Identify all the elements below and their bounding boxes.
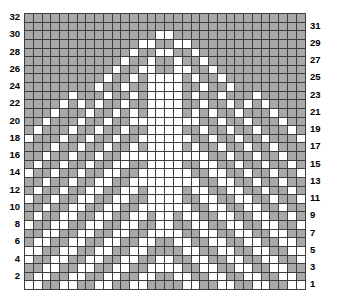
chart-cell[interactable] <box>252 152 261 161</box>
chart-cell[interactable] <box>244 22 253 31</box>
chart-cell[interactable] <box>121 272 130 281</box>
chart-cell[interactable] <box>235 169 244 178</box>
chart-cell[interactable] <box>51 143 60 152</box>
chart-cell[interactable] <box>95 212 104 221</box>
chart-cell[interactable] <box>112 177 121 186</box>
chart-cell[interactable] <box>287 134 296 143</box>
chart-cell[interactable] <box>209 203 218 212</box>
chart-cell[interactable] <box>138 74 147 83</box>
chart-cell[interactable] <box>279 126 288 135</box>
chart-cell[interactable] <box>33 281 42 290</box>
chart-cell[interactable] <box>174 65 183 74</box>
chart-cell[interactable] <box>130 195 139 204</box>
chart-cell[interactable] <box>138 57 147 66</box>
chart-cell[interactable] <box>25 264 34 273</box>
chart-cell[interactable] <box>217 74 226 83</box>
chart-cell[interactable] <box>138 177 147 186</box>
chart-cell[interactable] <box>226 48 235 57</box>
chart-cell[interactable] <box>121 160 130 169</box>
chart-cell[interactable] <box>296 14 305 23</box>
chart-cell[interactable] <box>68 65 77 74</box>
chart-cell[interactable] <box>147 31 156 40</box>
chart-cell[interactable] <box>60 195 69 204</box>
chart-cell[interactable] <box>165 48 174 57</box>
chart-cell[interactable] <box>261 91 270 100</box>
chart-cell[interactable] <box>103 238 112 247</box>
chart-cell[interactable] <box>130 272 139 281</box>
chart-cell[interactable] <box>235 14 244 23</box>
chart-cell[interactable] <box>165 31 174 40</box>
chart-cell[interactable] <box>51 74 60 83</box>
chart-cell[interactable] <box>226 39 235 48</box>
chart-cell[interactable] <box>200 134 209 143</box>
chart-cell[interactable] <box>279 281 288 290</box>
chart-cell[interactable] <box>261 195 270 204</box>
chart-cell[interactable] <box>68 117 77 126</box>
chart-cell[interactable] <box>165 221 174 230</box>
chart-cell[interactable] <box>252 143 261 152</box>
chart-cell[interactable] <box>217 31 226 40</box>
chart-cell[interactable] <box>68 100 77 109</box>
chart-cell[interactable] <box>121 22 130 31</box>
chart-cell[interactable] <box>174 22 183 31</box>
chart-cell[interactable] <box>42 117 51 126</box>
chart-cell[interactable] <box>103 255 112 264</box>
chart-cell[interactable] <box>200 126 209 135</box>
chart-cell[interactable] <box>279 100 288 109</box>
chart-cell[interactable] <box>86 272 95 281</box>
chart-cell[interactable] <box>147 221 156 230</box>
chart-cell[interactable] <box>60 126 69 135</box>
chart-cell[interactable] <box>174 14 183 23</box>
chart-cell[interactable] <box>51 48 60 57</box>
chart-cell[interactable] <box>130 203 139 212</box>
chart-cell[interactable] <box>252 22 261 31</box>
chart-cell[interactable] <box>279 272 288 281</box>
chart-cell[interactable] <box>287 31 296 40</box>
chart-cell[interactable] <box>200 57 209 66</box>
chart-cell[interactable] <box>60 134 69 143</box>
chart-cell[interactable] <box>279 117 288 126</box>
chart-cell[interactable] <box>235 229 244 238</box>
chart-cell[interactable] <box>147 152 156 161</box>
chart-cell[interactable] <box>165 195 174 204</box>
chart-cell[interactable] <box>86 281 95 290</box>
chart-cell[interactable] <box>270 134 279 143</box>
chart-cell[interactable] <box>86 83 95 92</box>
chart-cell[interactable] <box>33 177 42 186</box>
chart-cell[interactable] <box>217 65 226 74</box>
chart-cell[interactable] <box>156 238 165 247</box>
chart-cell[interactable] <box>68 169 77 178</box>
chart-cell[interactable] <box>174 272 183 281</box>
chart-cell[interactable] <box>33 195 42 204</box>
chart-cell[interactable] <box>191 186 200 195</box>
chart-cell[interactable] <box>226 272 235 281</box>
chart-cell[interactable] <box>156 160 165 169</box>
chart-cell[interactable] <box>95 126 104 135</box>
chart-cell[interactable] <box>86 255 95 264</box>
chart-cell[interactable] <box>209 31 218 40</box>
chart-cell[interactable] <box>235 83 244 92</box>
chart-cell[interactable] <box>33 39 42 48</box>
chart-cell[interactable] <box>147 143 156 152</box>
chart-cell[interactable] <box>103 74 112 83</box>
chart-cell[interactable] <box>270 221 279 230</box>
chart-cell[interactable] <box>147 255 156 264</box>
chart-cell[interactable] <box>296 272 305 281</box>
chart-cell[interactable] <box>42 238 51 247</box>
chart-cell[interactable] <box>270 186 279 195</box>
chart-cell[interactable] <box>217 22 226 31</box>
chart-cell[interactable] <box>209 255 218 264</box>
chart-cell[interactable] <box>252 195 261 204</box>
chart-cell[interactable] <box>130 65 139 74</box>
chart-cell[interactable] <box>33 117 42 126</box>
chart-cell[interactable] <box>68 83 77 92</box>
chart-cell[interactable] <box>174 281 183 290</box>
chart-cell[interactable] <box>25 195 34 204</box>
chart-cell[interactable] <box>103 39 112 48</box>
chart-cell[interactable] <box>42 246 51 255</box>
chart-cell[interactable] <box>209 117 218 126</box>
chart-cell[interactable] <box>279 134 288 143</box>
chart-cell[interactable] <box>244 229 253 238</box>
chart-cell[interactable] <box>200 212 209 221</box>
chart-cell[interactable] <box>112 126 121 135</box>
